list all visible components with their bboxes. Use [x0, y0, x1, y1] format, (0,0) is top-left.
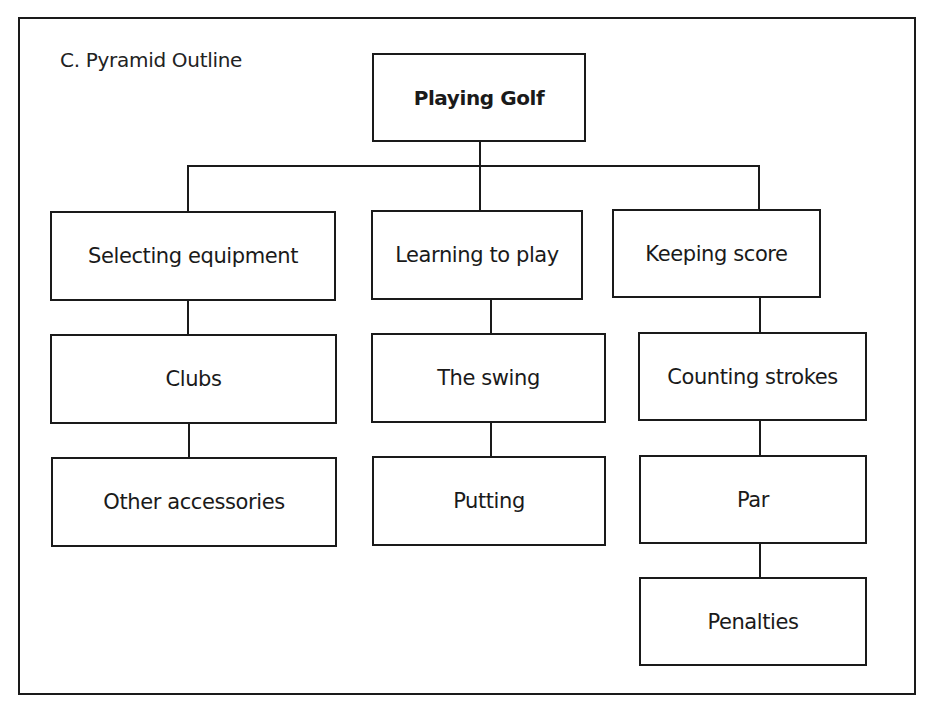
connector-to-selecting-equipment: [187, 165, 189, 211]
node-par: Par: [639, 455, 867, 544]
node-clubs: Clubs: [50, 334, 337, 424]
connector-counting-to-par: [759, 420, 761, 456]
connector-horizontal-bar: [187, 165, 760, 167]
node-selecting-equipment: Selecting equipment: [50, 211, 336, 301]
connector-learning-to-swing: [490, 299, 492, 334]
connector-keeping-to-counting: [759, 297, 761, 333]
connector-swing-to-putting: [490, 422, 492, 457]
connector-to-keeping-score: [758, 165, 760, 210]
node-putting: Putting: [372, 456, 606, 546]
diagram-title: C. Pyramid Outline: [60, 48, 242, 72]
node-counting-strokes: Counting strokes: [638, 332, 867, 421]
node-keeping-score: Keeping score: [612, 209, 821, 298]
connector-root-down: [479, 141, 481, 167]
node-other-accessories: Other accessories: [51, 457, 337, 547]
node-root: Playing Golf: [372, 53, 586, 142]
connector-to-learning-to-play: [479, 165, 481, 211]
connector-clubs-to-accessories: [188, 422, 190, 458]
node-penalties: Penalties: [639, 577, 867, 666]
connector-par-to-penalties: [759, 543, 761, 578]
connector-selecting-to-clubs: [187, 300, 189, 335]
node-learning-to-play: Learning to play: [371, 210, 583, 300]
node-the-swing: The swing: [371, 333, 606, 423]
